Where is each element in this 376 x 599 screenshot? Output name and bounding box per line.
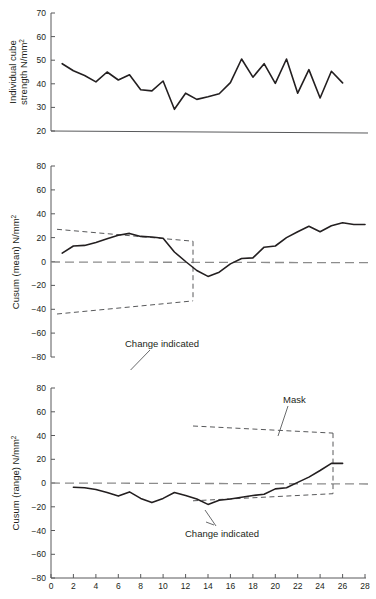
- cusum-range-ytick-m60: −60: [32, 549, 47, 559]
- cusum-mean-change-leader: [118, 350, 150, 370]
- cusum-range-xtick-label: 10: [158, 581, 168, 591]
- cusum-range-zero-line: [51, 483, 372, 484]
- cusum-range-xtick-label: 24: [315, 581, 325, 591]
- cusum-range-xtick-label: 14: [203, 581, 213, 591]
- cusum-range-xtick-label: 8: [138, 581, 143, 591]
- strength-y-ticklabels: 70 60 50 40 30 20: [37, 8, 47, 136]
- cusum-range-svg: 80 60 40 20 0 −20 −40 −60 −80 Cusum (ran…: [0, 370, 376, 599]
- chart-cusum-mean: 80 60 40 20 0 −20 −40 −60 −80 Cusum (mea…: [0, 150, 376, 370]
- cusum-mean-y-ticklabels: 80 60 40 20 0 −20 −40 −60 −80: [32, 161, 47, 362]
- strength-ytick-20: 20: [37, 126, 47, 136]
- cusum-range-mask-leader: [278, 406, 288, 436]
- cusum-mean-axis-title: Cusum (mean) N/mm2: [10, 214, 21, 309]
- cusum-range-axis-title: Cusum (range) N/mm2: [10, 435, 21, 530]
- cusum-range-xtick-label: 16: [226, 581, 236, 591]
- strength-ytick-30: 30: [37, 102, 47, 112]
- chart-cusum-range: 80 60 40 20 0 −20 −40 −60 −80 Cusum (ran…: [0, 370, 376, 599]
- strength-ytick-60: 60: [37, 32, 47, 42]
- strength-data-line: [62, 59, 342, 109]
- cusum-range-ytick-40: 40: [37, 431, 47, 441]
- cusum-mean-ytick-m80: −80: [32, 352, 47, 362]
- cusum-mean-ytick-60: 60: [37, 185, 47, 195]
- cusum-range-ytick-m40: −40: [32, 526, 47, 536]
- strength-axis-title: Individual cube strength N/mm2: [7, 39, 29, 105]
- cusum-range-ytick-m20: −20: [32, 502, 47, 512]
- strength-ytick-40: 40: [37, 79, 47, 89]
- cusum-mean-annotation-change-indicated: Change indicated: [125, 338, 199, 349]
- cusum-mean-ytick-m20: −20: [32, 280, 47, 290]
- cusum-range-annotation-change-indicated: Change indicated: [185, 528, 259, 539]
- cusum-range-ytick-0: 0: [41, 478, 46, 488]
- cusum-range-xtick-label: 28: [360, 581, 370, 591]
- cusum-range-ytick-80: 80: [37, 383, 47, 393]
- cusum-range-xtick-label: 6: [116, 581, 121, 591]
- cusum-range-change-leader2: [206, 522, 214, 525]
- cusum-range-xtick-label: 18: [248, 581, 258, 591]
- strength-x-axis: [51, 131, 368, 133]
- cusum-range-xtick-label: 12: [181, 581, 191, 591]
- strength-svg: 70 60 50 40 30 20 Individual cube streng…: [0, 0, 376, 150]
- cusum-mean-zero-line: [51, 262, 370, 263]
- cusum-range-xtick-label: 4: [94, 581, 99, 591]
- cusum-mean-ytick-m40: −40: [32, 304, 47, 314]
- cusum-mean-ytick-40: 40: [37, 209, 47, 219]
- cusum-range-annotation-mask: Mask: [283, 394, 306, 405]
- cusum-range-ytick-m80: −80: [32, 573, 47, 583]
- cusum-range-xtick-label: 26: [338, 581, 348, 591]
- cusum-range-xtick-label: 0: [49, 581, 54, 591]
- cusum-range-xtick-label: 20: [271, 581, 281, 591]
- strength-axis-title-line2: strength N/mm2: [18, 39, 29, 105]
- strength-y-ticks: [51, 13, 55, 131]
- cusum-mean-mask: [57, 229, 193, 314]
- cusum-range-ytick-60: 60: [37, 407, 47, 417]
- cusum-mean-ytick-20: 20: [37, 233, 47, 243]
- cusum-range-x-ticks: [51, 574, 365, 578]
- cusum-range-xtick-label: 2: [71, 581, 76, 591]
- cusum-range-y-ticklabels: 80 60 40 20 0 −20 −40 −60 −80: [32, 383, 47, 583]
- strength-ytick-50: 50: [37, 55, 47, 65]
- strength-ytick-70: 70: [37, 8, 47, 18]
- cusum-mean-ytick-80: 80: [37, 161, 47, 171]
- cusum-range-x-ticklabels: 0246810121416182022242628: [49, 581, 370, 591]
- cusum-mean-ytick-0: 0: [41, 257, 46, 267]
- cusum-mean-data-line: [62, 223, 365, 277]
- cusum-mean-ytick-m60: −60: [32, 328, 47, 338]
- cusum-mean-svg: 80 60 40 20 0 −20 −40 −60 −80 Cusum (mea…: [0, 150, 376, 370]
- cusum-range-xtick-label: 22: [293, 581, 303, 591]
- svg-text:Cusum (mean) N/mm2: Cusum (mean) N/mm2: [10, 214, 21, 309]
- chart-individual-cube-strength: 70 60 50 40 30 20 Individual cube streng…: [0, 0, 376, 150]
- svg-text:Cusum (range) N/mm2: Cusum (range) N/mm2: [10, 435, 21, 530]
- cusum-range-ytick-20: 20: [37, 454, 47, 464]
- cusum-range-mask: [193, 426, 333, 501]
- strength-axis-title-line1: Individual cube: [7, 40, 18, 103]
